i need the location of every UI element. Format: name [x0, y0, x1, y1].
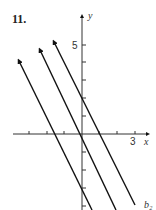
x-axis-label: x	[144, 137, 148, 147]
problem-number: 11.	[12, 14, 26, 24]
y-axis-label: y	[88, 11, 92, 21]
y-ticks	[82, 45, 86, 206]
line-label-b2: b₂	[144, 200, 152, 210]
line-b-0	[40, 50, 116, 210]
y-tick-label-5: 5	[72, 41, 78, 51]
line-b-2	[54, 42, 135, 205]
x-tick-label-3: 3	[130, 137, 136, 147]
chart-figure	[0, 0, 156, 210]
